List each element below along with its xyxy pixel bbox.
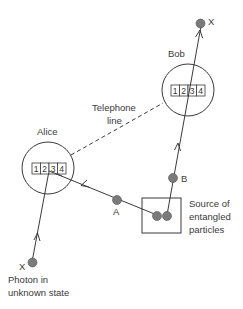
telephone-label-1: Telephone bbox=[92, 102, 136, 113]
alice-register: 1 2 3 4 bbox=[32, 163, 66, 174]
particle-x-bottom bbox=[28, 258, 37, 267]
x-top-label: X bbox=[208, 16, 215, 27]
source-label-3: particles bbox=[189, 224, 225, 235]
bob-register: 1 2 3 4 bbox=[171, 85, 205, 96]
alice-particle-path bbox=[49, 171, 157, 215]
telephone-label-2: line bbox=[107, 115, 122, 126]
entangled-particle-1 bbox=[153, 212, 162, 221]
b-label: B bbox=[181, 173, 187, 184]
source-label-1: Source of bbox=[189, 198, 230, 209]
photon-path bbox=[32, 171, 49, 262]
arrow-left-icon bbox=[81, 180, 89, 187]
a-label: A bbox=[113, 206, 120, 217]
photon-label-1: Photon in bbox=[8, 274, 48, 285]
source-label-2: entangled bbox=[189, 211, 231, 222]
particle-x-top bbox=[196, 19, 205, 28]
bob-register-digit-3: 3 bbox=[190, 86, 195, 96]
particle-b bbox=[169, 174, 178, 183]
bob-label: Bob bbox=[168, 48, 185, 59]
entangled-particle-2 bbox=[163, 212, 172, 221]
particle-a bbox=[113, 196, 122, 205]
bob-register-digit-2: 2 bbox=[181, 86, 186, 96]
photon-label-2: unknown state bbox=[8, 287, 69, 298]
teleportation-diagram: Telephone line Bob 1 2 3 4 X B Alice A 1… bbox=[0, 0, 243, 309]
alice-register-digit-2: 2 bbox=[42, 164, 47, 174]
bob-register-digit-1: 1 bbox=[173, 86, 178, 96]
x-bottom-label: X bbox=[19, 261, 26, 272]
alice-register-digit-1: 1 bbox=[34, 164, 39, 174]
alice-label: Alice bbox=[37, 126, 58, 137]
bob-register-digit-4: 4 bbox=[198, 86, 203, 96]
alice-register-digit-4: 4 bbox=[59, 164, 64, 174]
